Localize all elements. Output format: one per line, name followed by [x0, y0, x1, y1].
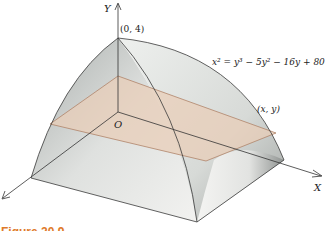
section-point-label: (x, y) — [257, 104, 280, 114]
apex-point-label: (0, 4) — [120, 24, 144, 34]
figure-caption: Figure 20.9 — [1, 225, 65, 231]
y-axis-label: Y — [104, 3, 112, 14]
x-axis-label: X — [313, 182, 322, 193]
origin-label: O — [114, 119, 122, 130]
solid-figure: Y X O (0, 4) (x, y) x² = y³ − 5y² − 16y … — [0, 0, 329, 231]
equation-label: x² = y³ − 5y² − 16y + 80 — [212, 57, 325, 67]
